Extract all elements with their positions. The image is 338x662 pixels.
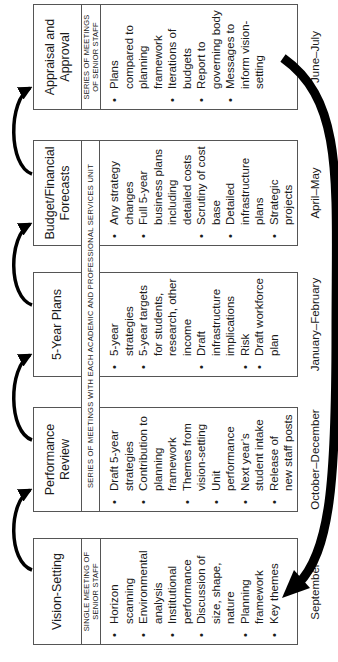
list-item: Risk: [238, 277, 253, 370]
stage-items: Draft 5-year strategies Contribution to …: [101, 408, 297, 511]
list-item: Release of new staff posts: [267, 412, 296, 505]
stage-title: Vision-Setting: [34, 539, 82, 644]
stage-items: Plans compared to planning framework Ite…: [101, 5, 297, 109]
stage-date: January–February: [306, 272, 324, 377]
stage-date: April–May: [306, 140, 324, 246]
stage-title: Appraisal and Approval: [34, 5, 82, 109]
list-item: 5-year targets for students, research, o…: [136, 277, 194, 370]
list-item: Draft workforce plan: [252, 277, 281, 370]
list-item: Scrutiny of cost base: [194, 145, 223, 239]
planning-cycle-diagram: Vision-Setting SINGLE MEETING OF SENIOR …: [0, 0, 338, 662]
list-item: Detailed infrastructure plans: [223, 145, 267, 239]
arrow-icon: [14, 490, 32, 570]
list-item: Horizon scanning: [107, 543, 136, 638]
stage-date: September: [306, 538, 324, 645]
stage-date: October–December: [306, 407, 324, 512]
arrow-icon: [14, 224, 32, 305]
stage-performance-review: Performance Review Draft 5-year strategi…: [33, 407, 298, 512]
list-item: Any strategy changes: [107, 145, 136, 239]
list-item: Draft infrastructure implications: [194, 277, 238, 370]
list-item: Unit performance: [209, 412, 238, 505]
list-item: Strategic projects: [267, 145, 296, 239]
list-item: Discussion of size, shape, nature: [194, 543, 238, 638]
list-item: Contribution to planning framework: [136, 412, 180, 505]
stage-title: 5-Year Plans: [34, 273, 82, 376]
stage-items: 5-year strategies 5-year targets for stu…: [101, 273, 297, 376]
list-item: Next year’s student intake: [238, 412, 267, 505]
stage-meeting-type: SINGLE MEETING OF SENIOR STAFF: [82, 539, 101, 644]
list-item: Report to governing body: [194, 9, 223, 103]
list-item: Key themes: [267, 543, 282, 638]
arrow-icon: [14, 88, 32, 174]
stage-budget-financial-forecasts: Budget/Financial Forecasts Any strategy …: [33, 140, 298, 246]
list-item: Planning framework: [238, 543, 267, 638]
stage-items: Horizon scanning Environmental analysis …: [101, 539, 297, 644]
stage-appraisal-approval: Appraisal and Approval SERIES OF MEETING…: [33, 4, 298, 110]
list-item: Messages to inform vision-setting: [223, 9, 267, 103]
stage-title: Budget/Financial Forecasts: [34, 141, 82, 245]
list-item: 5-year strategies: [107, 277, 136, 370]
stage-vision-setting: Vision-Setting SINGLE MEETING OF SENIOR …: [33, 538, 298, 645]
list-item: Draft 5-year strategies: [107, 412, 136, 505]
list-item: Institutional performance: [165, 543, 194, 638]
list-item: Full 5-year business plans including det…: [136, 145, 194, 239]
arrow-icon: [14, 355, 32, 440]
list-item: Iterations of budgets: [165, 9, 194, 103]
shared-meeting-type-strip: SERIES OF MEETINGS WITH EACH ACADEMIC AN…: [81, 140, 100, 512]
list-item: Plans compared to planning framework: [107, 9, 165, 103]
list-item: Environmental analysis: [136, 543, 165, 638]
list-item: Themes from vision-setting: [180, 412, 209, 505]
stage-meeting-type: SERIES OF MEETINGS OF SENIOR STAFF: [82, 5, 101, 109]
stage-title: Performance Review: [34, 408, 82, 511]
stage-5-year-plans: 5-Year Plans 5-year strategies 5-year ta…: [33, 272, 298, 377]
stage-date: June–July: [306, 4, 324, 110]
stage-items: Any strategy changes Full 5-year busines…: [101, 141, 297, 245]
